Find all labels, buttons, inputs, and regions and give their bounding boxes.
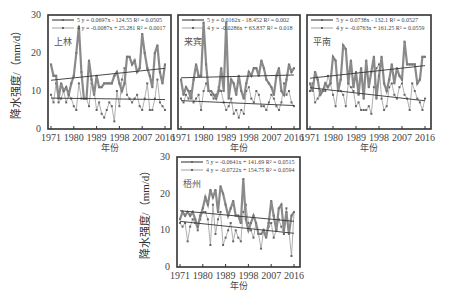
x-tick-label: 1971 [300,132,320,143]
legend-entry: 4 y = -0.0722x + 154.75 R² = 0.0594 [206,167,294,173]
y-axis-title: 降水强度/（mm/d） [9,25,22,120]
y-tick-label: 30 [160,151,170,162]
y-tick-label: 20 [160,188,170,199]
station-label: 梧州 [183,178,201,189]
legend-entry: 4 y = -0.0286x + 63.837 R² = 0.018 [207,25,292,31]
station-label: 平南 [313,36,331,47]
station-label: 来宾 [184,36,202,47]
x-tick-label: 1989 [346,132,366,143]
y-tick-label: 10 [160,224,170,235]
x-axis-title: 年份 [230,280,248,291]
x-axis-title: 年份 [101,142,119,153]
plot-frame [178,15,300,129]
x-tick-label: 2007 [261,132,281,143]
legend-entry: 5 y = 0.0738x - 132.1 R² = 0.0527 [336,17,418,23]
x-tick-label: 1998 [239,132,259,143]
x-tick-label: 1980 [194,132,214,143]
legend-entry: 5 y = -0.0641x + 141.69 R² = 0.0515 [206,159,294,165]
y-tick-label: 30 [31,9,41,20]
legend-entry: 5 y = 0.0697x - 124.55 R² = 0.0505 [77,17,162,23]
x-tick-label: 1989 [216,132,236,143]
x-tick-label: 1980 [323,132,343,143]
x-axis-title: 年份 [230,142,248,153]
x-tick-label: 1998 [109,132,129,143]
x-tick-label: 1989 [216,270,236,281]
x-tick-label: 1998 [369,132,389,143]
x-tick-label: 2007 [132,132,152,143]
x-tick-label: 2007 [261,270,281,281]
x-tick-label: 1971 [171,132,191,143]
x-axis-title: 年份 [360,142,378,153]
x-tick-label: 1980 [193,270,213,281]
station-label: 上林 [54,36,72,47]
x-tick-label: 1980 [64,132,84,143]
chart-canvas: 197119801989199820072016年份0102030降水强度/（m… [0,0,451,306]
x-tick-label: 1998 [238,270,258,281]
panel-2: 197119801989199820072016年份5 y = 0.0162x … [171,15,304,153]
y-tick-label: 0 [165,261,170,272]
legend-entry: 5 y = 0.0162x - 18.452 R² = 0.002 [207,17,289,23]
x-tick-label: 2016 [284,270,304,281]
legend-entry: 4 y = -0.0763x + 161.25 R² = 0.0559 [336,25,424,31]
panel-3: 197119801989199820072016年份5 y = 0.0738x … [300,15,435,153]
y-tick-label: 0 [36,123,41,134]
y-tick-label: 20 [31,47,41,58]
panel-4: 197119801989199820072016年份0102030降水强度/（m… [138,151,304,291]
x-tick-label: 1971 [41,132,61,143]
x-tick-label: 1989 [87,132,107,143]
x-tick-label: 1971 [170,270,190,281]
x-tick-label: 2016 [415,132,435,143]
y-tick-label: 10 [31,85,41,96]
x-tick-label: 2007 [392,132,412,143]
legend-entry: 4 y = -0.0087x + 25.281 R² = 0.0017 [77,25,165,31]
panel-1: 197119801989199820072016年份0102030降水强度/（m… [9,9,175,153]
y-axis-title: 降水强度/（mm/d） [138,165,151,260]
